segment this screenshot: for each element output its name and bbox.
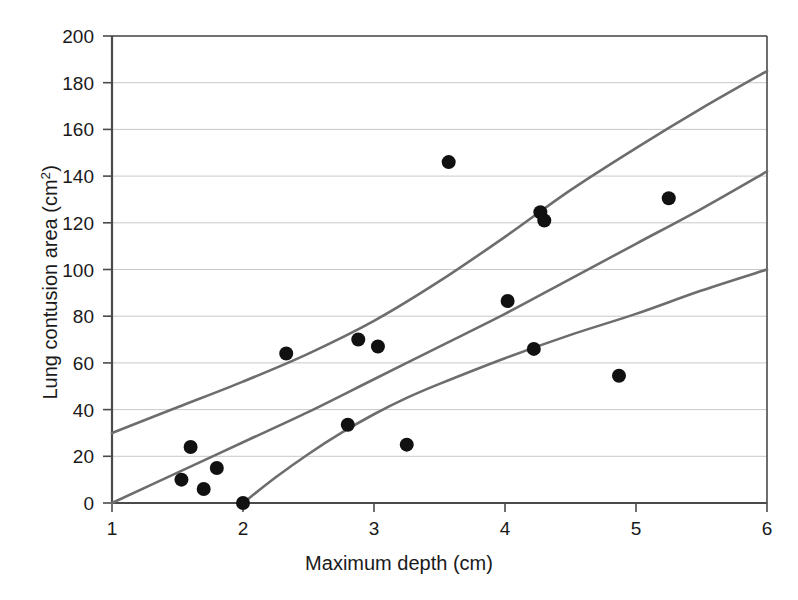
y-axis-title-tail: )	[39, 165, 61, 172]
y-axis-title-superscript: 2	[38, 172, 53, 180]
data-point	[197, 482, 211, 496]
data-point	[612, 369, 626, 383]
scatter-plot-figure: 020406080100120140160180200 123456 Maxim…	[0, 0, 798, 600]
curve-upper-confidence-band	[112, 71, 767, 433]
x-tick-marks	[112, 503, 767, 512]
data-point	[184, 440, 198, 454]
data-point	[236, 496, 250, 510]
y-axis-title-text: Lung contusion area (cm	[39, 179, 61, 399]
y-tick-marks	[103, 36, 112, 503]
data-point	[210, 461, 224, 475]
regression-curves	[112, 71, 767, 503]
data-point	[501, 294, 515, 308]
data-point	[371, 340, 385, 354]
data-point	[341, 418, 355, 432]
data-point	[351, 333, 365, 347]
x-tick-label: 4	[500, 519, 511, 538]
data-point	[537, 213, 551, 227]
data-point	[279, 347, 293, 361]
x-tick-label: 2	[238, 519, 249, 538]
data-point	[174, 473, 188, 487]
y-tick-label: 200	[0, 27, 94, 46]
y-tick-label: 0	[0, 494, 94, 513]
y-axis-title: Lung contusion area (cm2)	[38, 72, 63, 492]
x-axis-title: Maximum depth (cm)	[0, 552, 798, 575]
data-point	[442, 155, 456, 169]
curve-fitted-regression-line	[112, 171, 767, 503]
x-tick-label: 6	[762, 519, 773, 538]
plot-canvas	[0, 0, 798, 600]
x-tick-label: 1	[107, 519, 118, 538]
data-point	[527, 342, 541, 356]
data-point	[400, 438, 414, 452]
data-point	[662, 191, 676, 205]
x-tick-label: 3	[369, 519, 380, 538]
x-tick-label: 5	[631, 519, 642, 538]
